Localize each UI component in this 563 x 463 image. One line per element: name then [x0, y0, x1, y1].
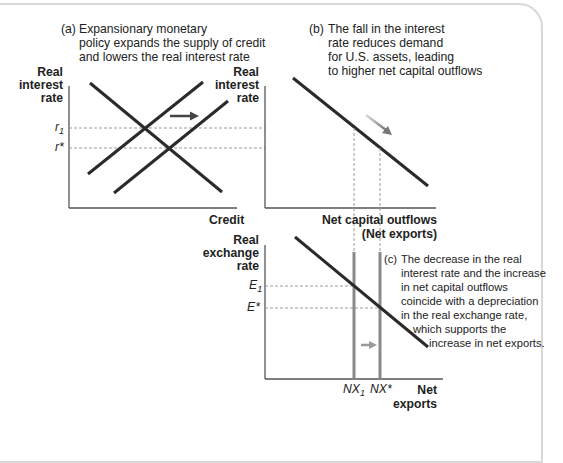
nx-shift-arrow	[361, 341, 377, 349]
movement-along-curve-arrow	[366, 115, 392, 135]
panel-c-caption-3: in net capital outflows	[401, 281, 508, 295]
panel-c-ylabel-3: rate	[237, 260, 259, 274]
panel-b-xlabel-2: (Net exports)	[362, 228, 437, 242]
panel-a-axes	[69, 86, 237, 208]
panel-a-caption-1: Expansionary monetary	[79, 23, 207, 37]
panel-b-caption-1: The fall in the interest	[328, 23, 445, 37]
rstar-tick-label: r*	[55, 141, 64, 155]
panel-b-xlabel-1: Net capital outflows	[322, 214, 437, 228]
panel-a-caption-3: and lowers the real interest rate	[79, 51, 250, 65]
supply-shift-arrow	[170, 112, 199, 121]
panel-c-caption-6: which supports the	[413, 323, 506, 337]
net-capital-outflow-curve	[293, 78, 428, 186]
panel-c-caption-5: in the real exchange rate,	[401, 309, 527, 323]
panel-a-ylabel-3: rate	[41, 92, 63, 106]
panel-c-xlabel-1: Net	[417, 384, 437, 398]
panel-a-xlabel: Credit	[209, 214, 244, 228]
panel-c-caption-7: increase in net exports.	[429, 337, 545, 351]
panel-b-tag: (b)	[309, 23, 324, 37]
panel-a-caption-2: policy expands the supply of credit	[79, 37, 265, 51]
panel-b-ylabel-3: rate	[237, 92, 259, 106]
nxstar-tick-label: NX*	[370, 383, 392, 397]
panel-c-xlabel-2: exports	[393, 398, 437, 412]
credit-demand-curve	[90, 83, 222, 192]
panel-c-caption-1: The decrease in the real	[401, 253, 522, 267]
panel-a-tag: (a)	[61, 23, 76, 37]
panel-c-caption-2: interest rate and the increase	[401, 267, 546, 281]
panel-b-caption-4: to higher net capital outflows	[328, 65, 482, 79]
r1-tick-label: r1	[55, 121, 64, 139]
estar-tick-label: E*	[247, 301, 260, 315]
panel-b-caption-2: rate reduces demand	[328, 37, 443, 51]
panel-c-tag: (c)	[384, 253, 397, 267]
panel-c-caption-4: coincide with a depreciation	[401, 295, 538, 309]
e1-tick-label: E1	[249, 279, 262, 297]
panel-b-axes	[265, 86, 436, 208]
panel-b-caption-3: for U.S. assets, leading	[328, 51, 454, 65]
nx1-tick-label: NX1	[343, 383, 365, 401]
